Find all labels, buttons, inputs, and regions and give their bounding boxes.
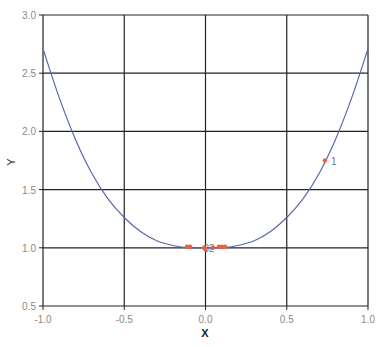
data-points xyxy=(185,158,327,251)
x-tick-label: -1.0 xyxy=(34,314,52,325)
point-labels: 132 xyxy=(203,156,337,254)
data-point xyxy=(188,244,192,248)
y-tick-label: 2.5 xyxy=(22,68,36,79)
y-tick-label: 1.5 xyxy=(22,185,36,196)
x-tick-label: 0.0 xyxy=(199,314,213,325)
point-label: 1 xyxy=(331,156,337,167)
y-axis-label: Y xyxy=(5,158,17,166)
x-tick-label: -0.5 xyxy=(116,314,134,325)
x-axis-label: X xyxy=(201,327,209,339)
x-tick-label: 1.0 xyxy=(361,314,375,325)
y-tick-label: 0.5 xyxy=(22,301,36,312)
data-point xyxy=(323,158,327,162)
y-tick-label: 1.0 xyxy=(22,243,36,254)
chart: -1.0-0.50.00.51.00.51.01.52.02.53.0 132 … xyxy=(0,0,386,347)
data-point xyxy=(223,244,227,248)
y-tick-label: 3.0 xyxy=(22,10,36,21)
y-tick-label: 2.0 xyxy=(22,126,36,137)
grid xyxy=(43,15,368,306)
point-label: 32 xyxy=(203,243,215,254)
x-tick-label: 0.5 xyxy=(280,314,294,325)
